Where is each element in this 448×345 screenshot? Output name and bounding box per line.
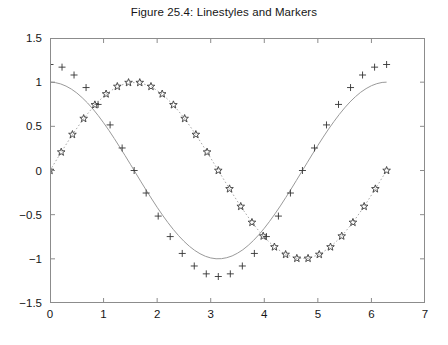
x-tick-label: 1 — [100, 308, 106, 320]
x-tick-label: 3 — [208, 308, 214, 320]
y-tick-label: −1 — [0, 253, 42, 265]
y-tick-label: −0.5 — [0, 209, 42, 221]
x-tick-label: 7 — [422, 308, 428, 320]
plot-svg — [50, 38, 425, 303]
x-tick-label: 2 — [154, 308, 160, 320]
x-tick-label: 0 — [47, 308, 53, 320]
x-tick-label: 4 — [261, 308, 267, 320]
y-tick-label: 1.5 — [0, 32, 42, 44]
series-layer — [50, 61, 390, 280]
y-tick-label: 0 — [0, 165, 42, 177]
x-tick-label: 6 — [368, 308, 374, 320]
x-tick-label: 5 — [315, 308, 321, 320]
y-tick-label: 0.5 — [0, 120, 42, 132]
chart-title: Figure 25.4: Linestyles and Markers — [0, 6, 448, 18]
figure-container: Figure 25.4: Linestyles and Markers −1.5… — [0, 0, 448, 345]
y-tick-label: 1 — [0, 76, 42, 88]
y-tick-label: −1.5 — [0, 297, 42, 309]
plot-area — [50, 38, 425, 303]
axes-frame — [50, 38, 425, 303]
